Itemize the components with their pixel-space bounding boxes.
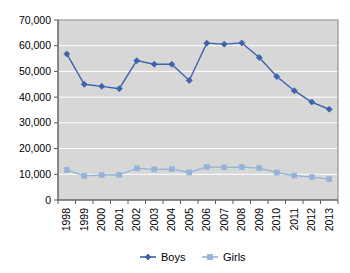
data-point — [99, 173, 104, 178]
legend-marker-square — [207, 254, 212, 259]
data-point — [187, 170, 192, 175]
y-axis-tick-label: 60,000 — [19, 39, 51, 51]
y-axis-tick-label: 40,000 — [19, 91, 51, 103]
y-axis-tick-label: 50,000 — [19, 65, 51, 77]
data-point — [134, 166, 139, 171]
x-axis-tick-label: 2011 — [288, 208, 300, 231]
data-point — [117, 172, 122, 177]
chart-canvas: 010,00020,00030,00040,00050,00060,00070,… — [0, 0, 350, 273]
x-axis-tick-label: 2007 — [218, 208, 230, 232]
x-axis-tick-label: 1999 — [78, 208, 90, 232]
data-point — [169, 167, 174, 172]
y-axis-tick-label: 70,000 — [19, 14, 51, 26]
data-point — [64, 168, 69, 173]
y-axis-tick-label: 10,000 — [19, 168, 51, 180]
legend-label: Girls — [223, 251, 246, 263]
x-axis-tick-label: 2002 — [130, 208, 142, 232]
x-axis-tick-label: 1998 — [60, 208, 72, 232]
data-point — [327, 177, 332, 182]
x-axis-tick-label: 2001 — [113, 208, 125, 232]
data-point — [239, 165, 244, 170]
y-axis-tick-label: 20,000 — [19, 142, 51, 154]
line-chart: 010,00020,00030,00040,00050,00060,00070,… — [0, 0, 350, 273]
x-axis-tick-label: 2013 — [323, 208, 335, 232]
y-axis-tick-label: 30,000 — [19, 116, 51, 128]
data-point — [152, 167, 157, 172]
y-axis-tick-label: 0 — [45, 194, 51, 206]
x-axis-tick-label: 2003 — [148, 208, 160, 232]
x-axis-tick-label: 2009 — [253, 208, 265, 232]
x-axis-tick-label: 2012 — [305, 208, 317, 232]
x-axis-tick-label: 2006 — [200, 208, 212, 232]
data-point — [82, 173, 87, 178]
x-axis-tick-label: 2010 — [270, 208, 282, 232]
legend-label: Boys — [161, 251, 186, 263]
x-axis-tick-label: 2008 — [235, 208, 247, 232]
data-point — [292, 173, 297, 178]
x-axis-tick-label: 2000 — [95, 208, 107, 232]
data-point — [222, 165, 227, 170]
data-point — [204, 164, 209, 169]
x-axis-tick-label: 2005 — [183, 208, 195, 232]
x-axis-tick-label: 2004 — [165, 208, 177, 232]
data-point — [274, 170, 279, 175]
data-point — [257, 166, 262, 171]
data-point — [309, 175, 314, 180]
